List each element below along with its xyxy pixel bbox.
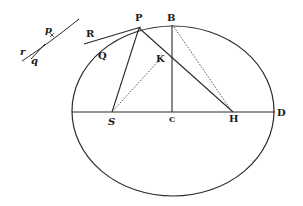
label-c: C [169,114,175,124]
label-b: B [167,12,175,23]
label-s: S [108,116,115,127]
ellipse-diagram: P B K R Q S C H D p r q [0,0,303,206]
line-ph [139,28,233,112]
label-r: R [86,28,95,39]
label-q-small: q [31,55,38,66]
label-p-small: p [45,24,52,35]
label-q: Q [98,50,107,61]
label-p: P [135,12,143,23]
label-k: K [156,53,165,64]
dotted-bh [174,27,231,110]
label-h: H [229,113,238,124]
label-r-small: r [20,46,26,57]
label-d: D [277,107,286,118]
dotted-sk [112,57,162,112]
